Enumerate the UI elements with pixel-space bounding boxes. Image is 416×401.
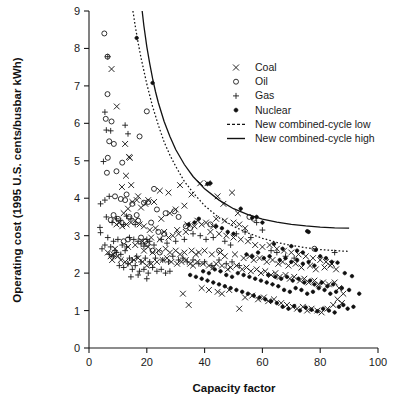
y-tick-label: 5 — [74, 155, 80, 167]
oil-marker — [188, 226, 193, 231]
nuclear-marker — [267, 254, 271, 258]
figure-container: 0123456789 020406080100 CoalOilGasNuclea… — [0, 0, 416, 401]
nuclear-cross — [291, 278, 295, 282]
gas-marker — [170, 253, 176, 259]
coal-marker — [202, 248, 208, 254]
coal-marker — [196, 250, 202, 256]
gas-marker — [181, 237, 187, 243]
nuclear-marker — [226, 230, 230, 234]
nuclear-marker — [291, 278, 295, 282]
gas-marker — [99, 246, 105, 252]
nuclear-cross — [275, 301, 279, 305]
nuclear-cross — [267, 254, 271, 258]
y-tick-label: 7 — [74, 80, 80, 92]
gas-marker — [153, 255, 159, 261]
gas-marker — [97, 225, 103, 231]
nuclear-marker — [330, 260, 334, 264]
oil-marker — [120, 160, 125, 165]
coal-marker — [180, 291, 186, 297]
nuclear-cross — [312, 263, 316, 267]
gas-marker — [248, 235, 254, 241]
nuclear-cross — [345, 306, 349, 310]
nuclear-marker — [220, 226, 224, 230]
coal-marker — [248, 268, 254, 274]
nuclear-cross — [347, 288, 351, 292]
coal-marker — [236, 306, 242, 312]
nuclear-marker — [357, 292, 361, 296]
nuclear-cross — [298, 308, 302, 312]
nuclear-marker — [253, 277, 257, 281]
oil-marker — [156, 229, 161, 234]
x-axis: 020406080100 — [86, 348, 387, 368]
y-tick-label: 0 — [74, 342, 80, 354]
nuclear-marker — [299, 288, 303, 292]
nuclear-cross — [280, 305, 284, 309]
coal-marker — [177, 182, 183, 188]
nuclear-marker — [319, 280, 323, 284]
nuclear-marker — [328, 292, 332, 296]
nuclear-marker — [246, 292, 250, 296]
x-tick-label: 40 — [198, 356, 210, 368]
nuclear-cross — [259, 278, 263, 282]
coal-marker — [122, 141, 128, 147]
gas-marker — [125, 131, 131, 137]
x-tick-label: 100 — [369, 356, 387, 368]
coal-marker — [132, 242, 138, 248]
nuclear-cross — [299, 288, 303, 292]
oil-marker — [114, 169, 119, 174]
coal-marker — [216, 231, 222, 237]
nuclear-marker — [347, 288, 351, 292]
y-tick-label: 4 — [74, 192, 80, 204]
x-tick-label: 60 — [256, 356, 268, 368]
coal-marker — [158, 216, 164, 222]
coal-marker — [154, 259, 160, 265]
nuclear-marker — [234, 108, 239, 113]
coal-marker — [206, 287, 212, 293]
gas-marker — [138, 259, 144, 265]
coal-marker — [186, 302, 192, 308]
coal-marker — [157, 188, 163, 194]
nuclear-cross — [282, 288, 286, 292]
gas-marker — [150, 265, 156, 271]
nuclear-marker — [282, 288, 286, 292]
coal-marker — [236, 222, 242, 228]
oil-marker — [103, 116, 108, 121]
legend-label: New combined-cycle high — [255, 132, 375, 144]
gas-marker — [142, 255, 148, 261]
gas-marker — [164, 240, 170, 246]
nuclear-marker — [322, 288, 326, 292]
nuclear-cross — [334, 290, 338, 294]
y-axis-title: Operating cost (1995 U.S. cents/busbar k… — [11, 57, 23, 303]
data-series-group — [97, 31, 361, 315]
y-tick-label: 3 — [74, 230, 80, 242]
gas-marker — [166, 259, 172, 265]
legend-label: Oil — [255, 75, 268, 87]
oil-marker — [144, 109, 149, 114]
gas-marker — [128, 274, 134, 280]
nuclear-cross — [253, 277, 257, 281]
coal-marker — [166, 190, 172, 196]
gas-marker — [135, 272, 141, 278]
nuclear-cross — [262, 256, 266, 260]
nuclear-cross — [343, 271, 347, 275]
coal-marker — [123, 173, 129, 179]
nuclear-cross — [247, 275, 251, 279]
nuclear-cross — [256, 250, 260, 254]
nuclear-marker — [265, 280, 269, 284]
coal-marker — [252, 242, 258, 248]
gas-marker — [210, 235, 216, 241]
coal-marker — [209, 251, 215, 257]
gas-marker — [228, 242, 234, 248]
x-tick-label: 0 — [86, 356, 92, 368]
coal-marker — [213, 216, 219, 222]
nuclear-cross — [322, 288, 326, 292]
gas-marker — [144, 276, 150, 282]
coal-marker — [128, 182, 134, 188]
nuclear-cross — [305, 292, 309, 296]
nuclear-marker — [218, 269, 222, 273]
nuclear-marker — [247, 275, 251, 279]
y-axis: 0123456789 — [74, 5, 89, 354]
oil-marker — [149, 220, 154, 225]
gas-marker — [105, 235, 111, 241]
nuclear-marker — [293, 286, 297, 290]
